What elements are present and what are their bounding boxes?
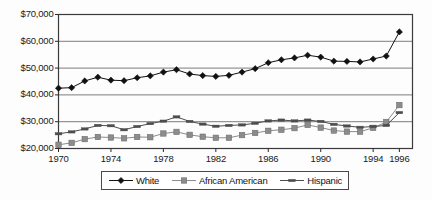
- data-point-diamond: [226, 72, 232, 78]
- data-point-diamond: [305, 52, 311, 58]
- gridlines-group: [59, 15, 413, 122]
- y-tick-label: $50,000: [21, 62, 54, 73]
- data-point-diamond: [200, 73, 206, 79]
- data-point-dash: [383, 124, 390, 126]
- data-point-dash: [239, 124, 246, 126]
- data-point-square: [134, 134, 139, 139]
- data-point-diamond: [344, 58, 350, 64]
- data-point-diamond: [357, 59, 363, 65]
- y-tick-label: $70,000: [21, 8, 54, 19]
- data-point-dash: [160, 120, 167, 122]
- legend-marker-diamond-icon: [108, 175, 134, 186]
- data-point-dash: [226, 124, 233, 126]
- data-point-dash: [317, 120, 324, 122]
- data-point-square: [318, 125, 323, 130]
- data-point-diamond: [147, 73, 153, 79]
- data-point-dash: [278, 119, 285, 121]
- data-point-dash: [344, 125, 351, 127]
- data-point-square: [200, 134, 205, 139]
- data-point-diamond: [291, 55, 297, 61]
- x-tick-label: 1990: [299, 153, 343, 164]
- data-point-square: [82, 136, 87, 141]
- data-series-group: [55, 29, 403, 148]
- data-point-square: [279, 127, 284, 132]
- legend-item-white[interactable]: White: [108, 175, 159, 186]
- data-point-diamond: [187, 71, 193, 77]
- data-point-diamond: [213, 73, 219, 79]
- data-point-dash: [370, 125, 377, 127]
- data-point-square: [181, 178, 186, 183]
- data-point-dash: [252, 122, 259, 124]
- legend-item-african-american[interactable]: African American: [171, 175, 268, 186]
- data-point-square: [252, 130, 257, 135]
- data-point-dash: [81, 128, 88, 130]
- legend-marker-square-icon: [171, 175, 197, 186]
- y-tick-label: $20,000: [21, 142, 54, 153]
- data-point-diamond: [108, 77, 114, 83]
- data-point-square: [344, 129, 349, 134]
- data-point-dash: [68, 131, 75, 133]
- data-point-dash: [173, 116, 180, 118]
- data-point-diamond: [265, 60, 271, 66]
- data-point-square: [266, 128, 271, 133]
- data-point-square: [69, 140, 74, 145]
- series-white: [55, 29, 402, 91]
- data-point-diamond: [118, 177, 124, 183]
- data-point-square: [357, 129, 362, 134]
- data-point-square: [292, 125, 297, 130]
- income-line-chart: $20,000$30,000$40,000$50,000$60,000$70,0…: [0, 0, 432, 200]
- data-point-dash: [199, 123, 206, 125]
- legend-item-hispanic[interactable]: Hispanic: [279, 175, 342, 186]
- data-point-square: [239, 132, 244, 137]
- data-point-square: [148, 135, 153, 140]
- y-tick-label: $30,000: [21, 115, 54, 126]
- data-point-square: [397, 102, 402, 107]
- data-point-dash: [147, 122, 154, 124]
- data-point-dash: [212, 125, 219, 127]
- y-tick-label: $40,000: [21, 88, 54, 99]
- chart-plot-area: [0, 0, 432, 200]
- data-point-diamond: [95, 74, 101, 80]
- data-point-square: [187, 132, 192, 137]
- data-point-square: [95, 134, 100, 139]
- data-point-dash: [134, 125, 141, 127]
- data-point-dash: [357, 126, 364, 128]
- data-point-square: [305, 122, 310, 127]
- legend-label: African American: [199, 175, 268, 186]
- data-point-dash: [121, 129, 128, 131]
- data-point-square: [161, 131, 166, 136]
- data-point-square: [174, 129, 179, 134]
- x-tick-label: 1996: [377, 153, 421, 164]
- data-point-diamond: [370, 56, 376, 62]
- data-point-diamond: [383, 53, 389, 59]
- chart-legend: WhiteAfrican AmericanHispanic: [101, 171, 349, 190]
- data-point-dash: [396, 111, 403, 113]
- data-point-square: [121, 136, 126, 141]
- data-point-dash: [94, 124, 101, 126]
- data-point-dash: [186, 120, 193, 122]
- legend-label: Hispanic: [307, 175, 342, 186]
- data-point-dash: [289, 179, 296, 181]
- data-point-diamond: [278, 57, 284, 63]
- data-point-dash: [291, 120, 298, 122]
- data-point-square: [56, 142, 61, 147]
- data-point-diamond: [82, 78, 88, 84]
- data-point-square: [213, 135, 218, 140]
- x-tick-label: 1970: [37, 153, 81, 164]
- x-tick-label: 1986: [246, 153, 290, 164]
- x-tick-label: 1978: [141, 153, 185, 164]
- data-point-diamond: [173, 67, 179, 73]
- data-point-square: [108, 135, 113, 140]
- data-point-diamond: [252, 66, 258, 72]
- legend-marker-dash-icon: [279, 175, 305, 186]
- data-point-diamond: [134, 75, 140, 81]
- data-point-dash: [304, 119, 311, 121]
- data-point-square: [331, 128, 336, 133]
- x-tick-label: 1974: [89, 153, 133, 164]
- x-tick-label: 1982: [194, 153, 238, 164]
- legend-label: White: [136, 175, 159, 186]
- data-point-dash: [265, 120, 272, 122]
- data-point-dash: [108, 125, 115, 127]
- data-point-diamond: [239, 69, 245, 75]
- data-point-diamond: [318, 54, 324, 60]
